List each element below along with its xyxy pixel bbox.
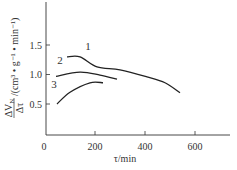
y-tick-label: 0.5 — [30, 99, 43, 110]
curve-label-2: 2 — [57, 54, 63, 66]
curve-label-1: 1 — [85, 40, 91, 52]
x-tick-label: 0 — [42, 141, 47, 152]
y-axis-title: ΔVN Δτ /(cm³ • g⁻¹ • min⁻¹) — [3, 18, 25, 118]
x-tick-label: 400 — [138, 141, 153, 152]
x-tick-label: 200 — [88, 141, 103, 152]
svg-text:/(cm³ • g⁻¹ • min⁻¹): /(cm³ • g⁻¹ • min⁻¹) — [9, 18, 21, 96]
series-line-1 — [67, 56, 180, 93]
y-tick-label: 1.0 — [30, 69, 43, 80]
curve-labels: 123 — [51, 40, 91, 90]
line-chart: 02004006000.51.01.5 123 τ/min ΔVN Δτ /(c… — [0, 0, 237, 170]
series-line-2 — [56, 72, 117, 79]
svg-text:Δτ: Δτ — [14, 103, 25, 113]
curve-label-3: 3 — [51, 78, 57, 90]
x-tick-label: 600 — [188, 141, 203, 152]
series-line-3 — [57, 82, 103, 104]
y-tick-label: 1.5 — [30, 40, 43, 51]
curves — [56, 56, 180, 104]
x-axis-title: τ/min — [114, 153, 136, 164]
axes: 02004006000.51.01.5 — [30, 2, 231, 152]
